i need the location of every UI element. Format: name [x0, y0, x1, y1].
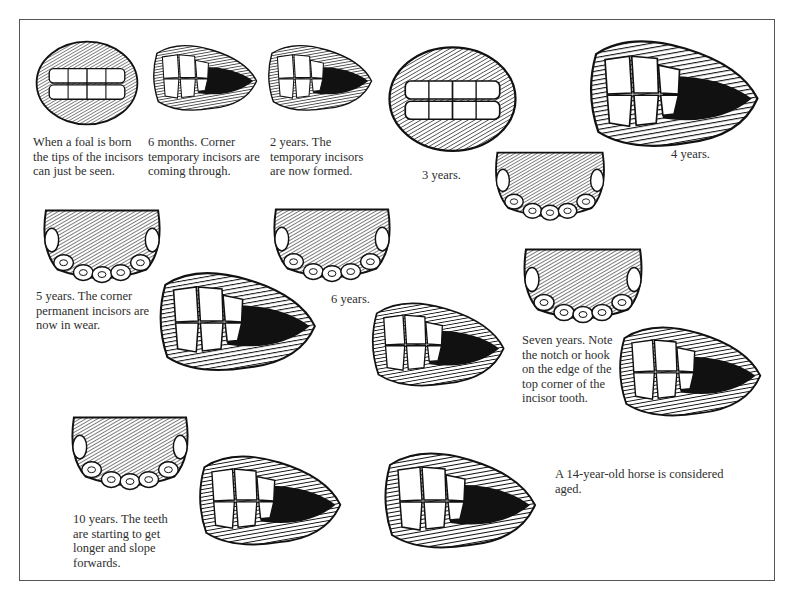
10-years-table-view-drawing: [66, 402, 194, 502]
caption-6-months: 6 months. Corner temporary incisors are …: [148, 135, 260, 179]
caption-4-years: 4 years.: [671, 147, 710, 162]
caption-newborn: When a foal is born the tips of the inci…: [33, 135, 143, 179]
2-years-side-view-drawing: [265, 35, 375, 120]
4-years-side-view-drawing: [585, 28, 763, 158]
6-years-side-view-drawing: [368, 274, 508, 414]
newborn-front-view-drawing: [32, 38, 142, 128]
10-years-side-view-drawing: [195, 425, 345, 575]
caption-5-years: 5 years. The corner permanent incisors a…: [36, 289, 149, 333]
caption-10-years: 10 years. The teeth are starting to get …: [73, 512, 168, 570]
14-years-side-view-drawing: [380, 430, 540, 570]
caption-3-years: 3 years.: [422, 168, 461, 183]
caption-6-years: 6 years.: [331, 292, 370, 307]
caption-2-years: 2 years. The temporary incisors are now …: [270, 135, 363, 179]
3-years-front-view-drawing: [385, 40, 520, 158]
6-months-side-view-drawing: [150, 35, 260, 120]
7-years-side-view-drawing: [615, 316, 765, 426]
caption-7-years: Seven years. Note the notch or hook on t…: [522, 333, 613, 406]
5-years-table-view-drawing: [38, 200, 166, 290]
caption-14-years: A 14-year-old horse is considered aged.: [555, 467, 723, 496]
